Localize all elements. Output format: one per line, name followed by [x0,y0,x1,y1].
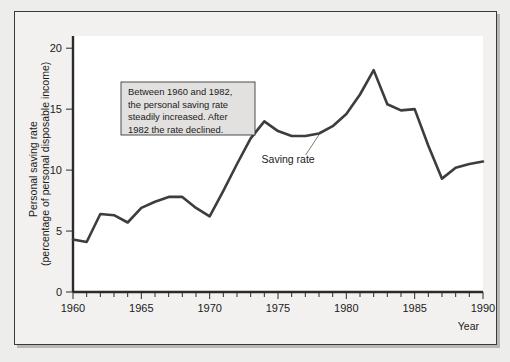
x-tick-label: 1970 [197,302,221,314]
saving-rate-line-chart: 05101520 1960196519701975198019851990 Sa… [15,12,498,346]
y-tick-label: 10 [50,164,62,176]
y-tick-label: 15 [50,103,62,115]
annotation-callout-box: Between 1960 and 1982, the personal savi… [121,82,255,135]
chart-canvas: 05101520 1960196519701975198019851990 Sa… [15,12,498,346]
annotation-line-1: Between 1960 and 1982, [128,86,232,97]
x-tick-label: 1985 [402,302,426,314]
annotation-line-2: the personal saving rate [128,99,228,110]
figure-frame: 05101520 1960196519701975198019851990 Sa… [14,11,497,345]
saving-rate-callout-label: Saving rate [262,153,315,165]
annotation-line-3: steadily increased. After [128,111,228,122]
x-tick-label: 1980 [334,302,358,314]
x-tick-label: 1965 [129,302,153,314]
y-axis-title-line-1: Personal saving rate [27,121,39,217]
y-axis-title-line-2: (percentage of personal disposable incom… [39,62,51,266]
x-axis-title: Year [458,320,480,332]
x-tick-label: 1960 [61,302,85,314]
annotation-line-4: 1982 the rate declined. [128,124,223,135]
x-axis-ticks: 1960196519701975198019851990 [61,302,495,314]
y-axis-title: Personal saving rate (percentage of pers… [27,62,51,266]
y-tick-label: 0 [56,286,62,298]
x-tick-label: 1990 [471,302,495,314]
y-tick-label: 5 [56,225,62,237]
y-axis-ticks: 05101520 [50,42,73,298]
y-tick-label: 20 [50,42,62,54]
x-tick-label: 1975 [266,302,290,314]
